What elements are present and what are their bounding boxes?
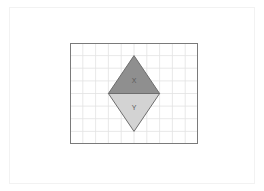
page-canvas: X Y xyxy=(0,0,264,191)
label-y: Y xyxy=(132,104,137,111)
grid-diagram-svg: X Y xyxy=(70,43,198,144)
label-x: X xyxy=(132,77,137,84)
geometry-figure: X Y xyxy=(70,43,198,144)
